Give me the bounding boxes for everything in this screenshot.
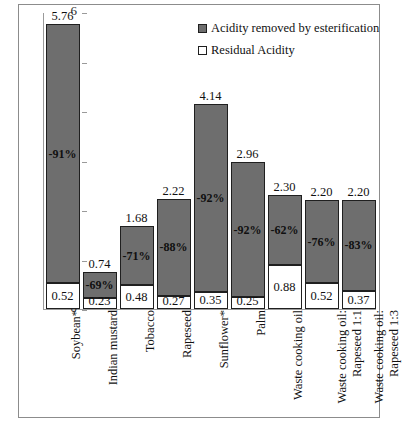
bar-total-label: 2.20 xyxy=(334,186,384,199)
x-axis-label: Waste cooking oil:Rapeseed 1:3 xyxy=(372,310,404,414)
x-axis-label: Waste cooking oil:Rapeseed 1:1 xyxy=(335,310,367,414)
x-axis-label-line: Rapeseed 1:3 xyxy=(387,310,402,414)
bar-reduction-label: -76% xyxy=(305,236,339,248)
bar-group[interactable]: 4.14-92%0.35 xyxy=(194,104,228,309)
legend-item[interactable]: Acidity removed by esterification xyxy=(198,18,378,40)
bar-residual-label: 0.48 xyxy=(120,291,154,304)
x-axis-label-line: Rapeseed 1:1 xyxy=(350,310,365,414)
bar-residual-label: 0.52 xyxy=(305,290,339,303)
bar-reduction-label: -69% xyxy=(83,279,117,291)
legend-item-label: Residual Acidity xyxy=(211,44,295,57)
x-axis-label: Sunflower* xyxy=(217,310,233,414)
x-axis-label-line: Waste cooking oil: xyxy=(335,310,350,414)
x-axis-label: Rapeseed xyxy=(180,310,196,414)
bar-group[interactable]: 2.20-83%0.37 xyxy=(342,200,376,309)
x-axis-label: Waste cooking oil xyxy=(291,310,307,414)
bar-group[interactable]: 0.74-69%0.23 xyxy=(83,272,117,309)
bar-reduction-label: -88% xyxy=(157,241,191,253)
bar-group[interactable]: 1.68-71%0.48 xyxy=(120,226,154,309)
filled-square-icon xyxy=(198,24,207,33)
bar-reduction-label: -92% xyxy=(194,192,228,204)
bar-total-label: 4.14 xyxy=(186,90,236,103)
bar-total-label: 2.96 xyxy=(223,148,273,161)
bar-total-label: 1.68 xyxy=(112,212,162,225)
open-square-icon xyxy=(198,46,207,55)
bar-total-label: 5.76 xyxy=(38,10,88,23)
x-axis-label: Soybean* xyxy=(69,310,85,414)
x-axis-label: Indian mustard xyxy=(106,310,122,414)
bar-residual-label: 0.23 xyxy=(83,295,117,308)
x-axis-label: Palm xyxy=(254,310,270,414)
bar-group[interactable]: 2.20-76%0.52 xyxy=(305,200,339,309)
chart-legend: Acidity removed by esterificationResidua… xyxy=(198,18,378,62)
bar-reduction-label: -83% xyxy=(342,239,376,251)
bar-reduction-label: -92% xyxy=(231,224,265,236)
bar-residual-label: 0.25 xyxy=(231,295,265,308)
bar-total-label: 2.22 xyxy=(149,185,199,198)
bar-reduction-label: -71% xyxy=(120,250,154,262)
bar-reduction-label: -91% xyxy=(46,148,80,160)
bar-reduction-label: -62% xyxy=(268,224,302,236)
x-axis-label: Tobacco xyxy=(143,310,159,414)
bar-residual-label: 0.35 xyxy=(194,294,228,307)
bar-residual-label: 0.27 xyxy=(157,295,191,308)
bar-residual-label: 0.88 xyxy=(268,281,302,294)
bar-residual-label: 0.52 xyxy=(46,290,80,303)
x-axis-labels: Soybean*Indian mustardTobaccoRapeseedSun… xyxy=(43,312,376,416)
legend-item-label: Acidity removed by esterification xyxy=(211,22,379,35)
bar-total-label: 0.74 xyxy=(75,258,125,271)
bar-group[interactable]: 2.22-88%0.27 xyxy=(157,199,191,309)
legend-item[interactable]: Residual Acidity xyxy=(198,40,378,62)
bar-group[interactable]: 2.30-62%0.88 xyxy=(268,195,302,309)
x-axis-label-line: Waste cooking oil: xyxy=(372,310,387,414)
bar-residual-label: 0.37 xyxy=(342,294,376,307)
